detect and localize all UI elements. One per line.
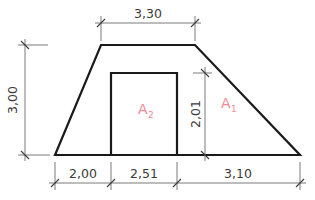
svg-text:A: A — [138, 101, 148, 117]
svg-text:1: 1 — [231, 104, 237, 114]
trapezoid-diagram: 3,30 3,00 2,01 2,00 2,51 3,10 A 2 — [0, 0, 315, 200]
bottom-dimension-chain: 2,00 2,51 3,10 — [49, 162, 306, 190]
left-height-dimension: 3,00 — [5, 39, 50, 161]
bottom-middle-label: 2,51 — [130, 166, 158, 181]
area-a2-label: A 2 — [138, 101, 154, 120]
top-width-label: 3,30 — [134, 6, 162, 21]
bottom-right-label: 3,10 — [224, 166, 252, 181]
svg-text:A: A — [221, 95, 231, 111]
top-dimension: 3,30 — [95, 6, 201, 41]
svg-text:2: 2 — [148, 110, 154, 120]
area-a1-label: A 1 — [221, 95, 237, 114]
inner-height-label: 2,01 — [188, 100, 203, 128]
bottom-left-label: 2,00 — [69, 166, 97, 181]
inner-height-dimension: 2,01 — [188, 67, 212, 161]
total-height-label: 3,00 — [5, 86, 20, 114]
